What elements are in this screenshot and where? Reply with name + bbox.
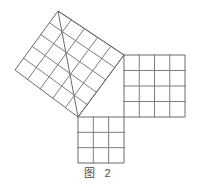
grid-line bbox=[41, 35, 106, 80]
grid-line bbox=[65, 46, 110, 107]
long-leg-square-group bbox=[124, 55, 185, 117]
grid-line bbox=[49, 23, 114, 68]
figure-caption-text: 图 2 bbox=[84, 167, 113, 179]
square-outline bbox=[78, 117, 124, 163]
figure-caption: 图 2 bbox=[0, 166, 198, 180]
grid-line bbox=[32, 46, 96, 92]
grid-line bbox=[53, 37, 98, 98]
triangle-outline bbox=[58, 11, 124, 117]
right-triangle-group bbox=[58, 11, 124, 117]
figure-container: 图 2 bbox=[0, 0, 198, 191]
grid-line bbox=[40, 29, 84, 89]
grid-line bbox=[28, 20, 72, 80]
hypotenuse-square-group bbox=[15, 11, 124, 117]
short-leg-square-group bbox=[78, 117, 124, 163]
pythagoras-diagram bbox=[0, 0, 198, 191]
